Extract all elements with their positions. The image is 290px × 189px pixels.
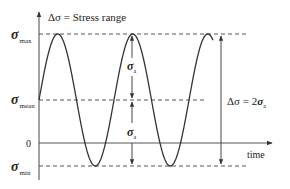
time-axis-label: time	[247, 149, 265, 160]
sigma-a-upper-label: σa	[127, 59, 136, 74]
sigma-mean-label: σmean	[11, 92, 35, 110]
stress-range-label: Δσ = 2σa	[227, 95, 266, 109]
zero-label: 0	[26, 138, 31, 149]
sigma-a-lower-label: σa	[127, 125, 136, 140]
sigma-max-label: σmax	[11, 27, 32, 45]
stress-range-title: Δσ = Stress range	[48, 11, 126, 23]
sigma-min-label: σmin	[11, 159, 31, 177]
stress-cycle-diagram: Δσ = Stress range σmax σmean 0 σmin σa σ…	[0, 0, 290, 189]
